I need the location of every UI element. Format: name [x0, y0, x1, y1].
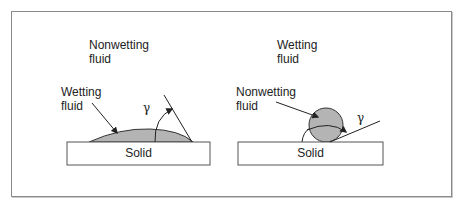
right-surrounding-fluid-label: Wetting fluid	[277, 38, 317, 66]
label-line: Wetting	[61, 85, 101, 99]
label-line: fluid	[61, 99, 101, 113]
label-line: fluid	[89, 52, 149, 66]
right-solid-label: Solid	[238, 146, 383, 160]
right-droplet-label: Nonwetting fluid	[236, 85, 296, 113]
label-line: Nonwetting	[236, 85, 296, 99]
label-line: fluid	[277, 52, 317, 66]
wetting-droplet	[89, 129, 193, 142]
label-line: fluid	[236, 99, 296, 113]
right-back-arc	[302, 128, 310, 142]
label-line: Nonwetting	[89, 38, 149, 52]
label-line: Wetting	[277, 38, 317, 52]
left-contact-angle-symbol: γ	[143, 101, 150, 115]
left-solid-label: Solid	[67, 146, 210, 160]
left-droplet-label: Wetting fluid	[61, 85, 101, 113]
left-surrounding-fluid-label: Nonwetting fluid	[89, 38, 149, 66]
right-contact-angle-symbol: γ	[357, 111, 364, 125]
